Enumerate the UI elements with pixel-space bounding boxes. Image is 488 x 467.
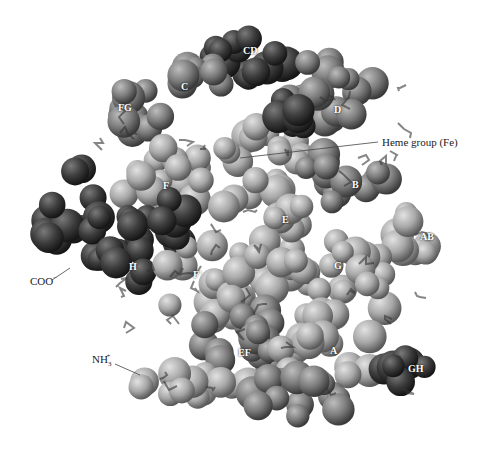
helix-label-e: E [282,214,289,225]
helix-label-ef: EF [238,347,251,358]
carboxyl-terminus-label: COO− [30,274,57,287]
helix-label-ab: AB [420,231,434,242]
helix-label-gh: GH [408,363,424,374]
myoglobin-figure: CD C FG D F B E AB G H F' EF A GH Heme g… [0,0,488,467]
helix-label-d: D [334,104,341,115]
helix-label-h: H [129,261,137,272]
protein-space-filling-model [0,0,488,467]
helix-label-g: G [334,260,342,271]
helix-label-b: B [352,179,359,190]
amino-terminus-label: NH3+ [92,352,110,368]
helix-label-f: F [163,180,169,191]
helix-label-cd: CD [243,45,257,56]
helix-label-fg: FG [118,102,132,113]
heme-group-label: Heme group (Fe) [382,136,458,148]
nh3-callout-line [115,364,140,375]
helix-label-c: C [181,81,188,92]
helix-label-f-prime: F' [193,269,202,280]
helix-label-a: A [330,345,337,356]
